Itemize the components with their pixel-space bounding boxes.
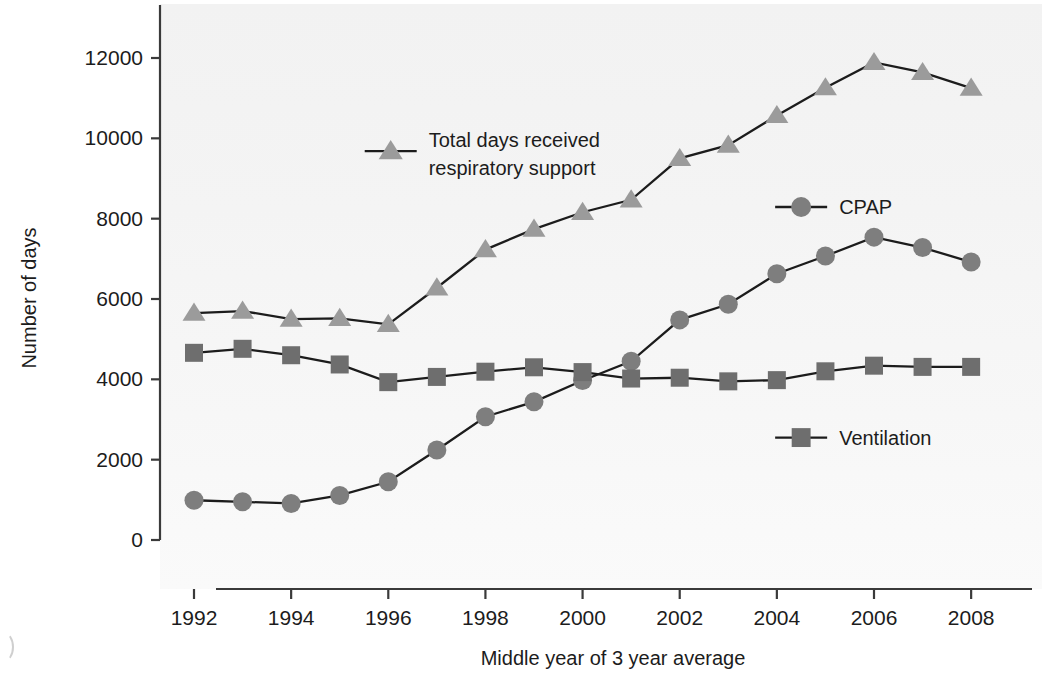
data-point-marker-circle bbox=[865, 228, 884, 247]
data-point-marker-triangle bbox=[863, 52, 886, 70]
data-point-marker-square bbox=[719, 372, 737, 390]
y-axis-tick-label: 2000 bbox=[96, 448, 143, 471]
data-point-marker-triangle bbox=[474, 239, 497, 257]
data-point-marker-circle bbox=[282, 494, 301, 513]
data-point-marker-square bbox=[816, 362, 834, 380]
y-axis-tick-label: 0 bbox=[131, 528, 143, 551]
y-axis-tick-label: 4000 bbox=[96, 367, 143, 390]
data-point-marker-square bbox=[962, 358, 980, 376]
data-point-marker-square bbox=[185, 344, 203, 362]
data-point-marker-square bbox=[234, 340, 252, 358]
data-point-marker-square bbox=[914, 358, 932, 376]
x-axis-tick-label: 2006 bbox=[851, 606, 898, 629]
data-point-marker-circle bbox=[379, 472, 398, 491]
data-point-marker-triangle bbox=[765, 105, 788, 123]
legend-label: Ventilation bbox=[839, 427, 931, 449]
series-line bbox=[194, 62, 971, 324]
data-point-marker-square bbox=[282, 346, 300, 364]
legend-item: Ventilation bbox=[775, 427, 931, 449]
y-axis-tick-label: 6000 bbox=[96, 287, 143, 310]
data-point-marker-circle bbox=[427, 441, 446, 460]
data-point-marker-square bbox=[865, 357, 883, 375]
data-point-marker-circle bbox=[719, 295, 738, 314]
data-point-marker-circle bbox=[622, 352, 641, 371]
data-point-marker-square bbox=[574, 363, 592, 381]
x-axis-tick-label: 2002 bbox=[656, 606, 703, 629]
data-point-marker-square bbox=[525, 358, 543, 376]
line-chart: 020004000600080001000012000Number of day… bbox=[0, 0, 1042, 677]
x-axis-tick-label: 2008 bbox=[948, 606, 995, 629]
data-point-marker-square bbox=[622, 370, 640, 388]
data-point-marker-square bbox=[428, 368, 446, 386]
data-point-marker-triangle bbox=[379, 140, 403, 159]
data-point-marker-circle bbox=[791, 197, 811, 217]
data-point-marker-square bbox=[671, 369, 689, 387]
data-point-marker-square bbox=[768, 371, 786, 389]
data-point-marker-circle bbox=[525, 392, 544, 411]
legend-label: Total days received bbox=[429, 129, 600, 151]
data-point-marker-triangle bbox=[814, 77, 837, 95]
data-point-marker-circle bbox=[330, 486, 349, 505]
series-total-days-received-respiratory-support bbox=[183, 52, 983, 332]
data-point-marker-circle bbox=[767, 264, 786, 283]
legend-item: Total days receivedrespiratory support bbox=[365, 129, 600, 179]
data-point-marker-circle bbox=[816, 247, 835, 266]
y-axis-tick-label: 8000 bbox=[96, 207, 143, 230]
data-point-marker-circle bbox=[913, 238, 932, 257]
data-point-marker-triangle bbox=[717, 135, 740, 153]
data-point-marker-circle bbox=[962, 253, 981, 272]
data-point-marker-triangle bbox=[328, 308, 351, 326]
x-axis-tick-label: 2000 bbox=[559, 606, 606, 629]
legend-label: CPAP bbox=[839, 196, 892, 218]
legend-item: CPAP bbox=[775, 196, 892, 218]
data-point-marker-circle bbox=[476, 407, 495, 426]
x-axis-tick-label: 1998 bbox=[462, 606, 509, 629]
data-point-marker-triangle bbox=[523, 219, 546, 237]
data-point-marker-triangle bbox=[425, 277, 448, 295]
chart-figure: 020004000600080001000012000Number of day… bbox=[0, 0, 1042, 677]
data-point-marker-square bbox=[476, 363, 494, 381]
y-axis-tick-label: 10000 bbox=[85, 126, 143, 149]
y-axis-title: Number of days bbox=[18, 227, 40, 368]
y-axis-tick-label: 12000 bbox=[85, 46, 143, 69]
data-point-marker-circle bbox=[233, 492, 252, 511]
x-axis-tick-label: 1996 bbox=[365, 606, 412, 629]
x-axis-tick-label: 2004 bbox=[753, 606, 800, 629]
data-point-marker-triangle bbox=[231, 301, 254, 319]
data-point-marker-circle bbox=[670, 310, 689, 329]
data-point-marker-square bbox=[331, 355, 349, 373]
x-axis-title: Middle year of 3 year average bbox=[481, 647, 746, 669]
data-point-marker-square bbox=[379, 373, 397, 391]
x-axis-tick-label: 1992 bbox=[171, 606, 218, 629]
x-axis-tick-label: 1994 bbox=[268, 606, 315, 629]
data-point-marker-circle bbox=[185, 491, 204, 510]
legend-label-line2: respiratory support bbox=[429, 157, 596, 179]
data-point-marker-square bbox=[792, 428, 811, 447]
